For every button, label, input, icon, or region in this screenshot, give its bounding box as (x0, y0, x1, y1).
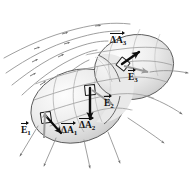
label-e-1: E1 (21, 126, 31, 137)
figure-root: ΔA3 E3 E2 ΔA2 E1 ΔA1 (0, 0, 195, 178)
label-delta-a-3: ΔA3 (110, 36, 126, 47)
caption-strip (0, 166, 195, 178)
closed-gaussian-surface (22, 26, 181, 154)
label-delta-a-1: ΔA1 (61, 126, 77, 137)
label-e-2: E2 (104, 99, 114, 110)
electric-flux-diagram (0, 0, 195, 178)
patch-1-field-vector (44, 112, 45, 138)
label-delta-a-2: ΔA2 (79, 121, 95, 132)
label-e-3: E3 (128, 73, 138, 84)
